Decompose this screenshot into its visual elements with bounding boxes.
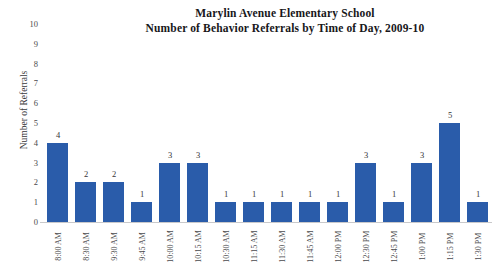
bar-value-label: 3	[156, 151, 184, 160]
x-tick-label: 9:45 AM	[138, 219, 147, 275]
bar-chart: Marylin Avenue Elementary School Number …	[0, 0, 499, 275]
bar-value-label: 1	[464, 190, 492, 199]
bar-value-label: 3	[352, 151, 380, 160]
bar-value-label: 3	[184, 151, 212, 160]
bar-group: 4	[44, 24, 72, 222]
bar-group: 1	[464, 24, 492, 222]
x-tick-label: 1:15 PM	[446, 219, 455, 275]
y-tick-label: 6	[34, 99, 38, 108]
bar-group: 1	[212, 24, 240, 222]
bar-group: 1	[380, 24, 408, 222]
x-tick: 10:00 AM	[156, 224, 184, 275]
x-tick: 9:45 AM	[128, 224, 156, 275]
bar-group: 3	[352, 24, 380, 222]
bar-group: 1	[268, 24, 296, 222]
plot-area: 4221331111131351	[40, 24, 492, 222]
x-tick: 11:15 AM	[240, 224, 268, 275]
x-tick-label: 10:15 AM	[194, 219, 203, 275]
x-tick: 8:00 AM	[44, 224, 72, 275]
bar-group: 5	[436, 24, 464, 222]
x-tick: 11:30 AM	[268, 224, 296, 275]
bar-value-label: 1	[128, 190, 156, 199]
x-tick: 1:15 PM	[436, 224, 464, 275]
x-tick: 11:45 AM	[296, 224, 324, 275]
x-tick-label: 8:30 AM	[82, 219, 91, 275]
bar-value-label: 1	[324, 190, 352, 199]
x-tick: 9:30 AM	[100, 224, 128, 275]
bar-group: 3	[184, 24, 212, 222]
y-axis-ticks: 109876543210	[20, 0, 38, 275]
x-tick: 1:30 PM	[464, 224, 492, 275]
bar-value-label: 1	[296, 190, 324, 199]
x-tick: 10:15 AM	[184, 224, 212, 275]
x-tick: 1:00 PM	[408, 224, 436, 275]
bar-group: 3	[408, 24, 436, 222]
y-tick-label: 7	[34, 79, 38, 88]
bar-group: 2	[100, 24, 128, 222]
x-tick-label: 12:00 PM	[334, 219, 343, 275]
x-tick-label: 10:00 AM	[166, 219, 175, 275]
bar-value-label: 1	[268, 190, 296, 199]
y-tick-label: 8	[34, 60, 38, 69]
bar[interactable]	[159, 163, 180, 222]
bar-group: 2	[72, 24, 100, 222]
x-tick: 12:00 PM	[324, 224, 352, 275]
y-tick-label: 5	[34, 119, 38, 128]
bar-value-label: 5	[436, 111, 464, 120]
x-axis-ticks: 8:00 AM8:30 AM9:30 AM9:45 AM10:00 AM10:1…	[40, 224, 492, 275]
bar-value-label: 1	[212, 190, 240, 199]
bar[interactable]	[47, 143, 68, 222]
x-tick-label: 9:30 AM	[110, 219, 119, 275]
bar[interactable]	[411, 163, 432, 222]
bar[interactable]	[355, 163, 376, 222]
x-tick-label: 1:00 PM	[418, 219, 427, 275]
bar-value-label: 3	[408, 151, 436, 160]
bar[interactable]	[187, 163, 208, 222]
x-tick-label: 11:45 AM	[306, 219, 315, 275]
bar[interactable]	[103, 182, 124, 222]
x-tick: 12:30 PM	[352, 224, 380, 275]
x-tick-label: 1:30 PM	[474, 219, 483, 275]
chart-title-line-1: Marylin Avenue Elementary School	[100, 6, 470, 21]
bar-value-label: 1	[240, 190, 268, 199]
y-tick-label: 2	[34, 178, 38, 187]
bar-group: 1	[128, 24, 156, 222]
x-tick-label: 12:30 PM	[362, 219, 371, 275]
y-tick-label: 0	[34, 218, 38, 227]
bar-value-label: 1	[380, 190, 408, 199]
y-tick-label: 3	[34, 159, 38, 168]
x-tick-label: 11:15 AM	[250, 219, 259, 275]
bar-group: 1	[296, 24, 324, 222]
x-tick-label: 10:30 AM	[222, 219, 231, 275]
bar[interactable]	[439, 123, 460, 222]
x-tick-label: 12:45 PM	[390, 219, 399, 275]
y-tick-label: 1	[34, 198, 38, 207]
bar-group: 1	[324, 24, 352, 222]
bar-group: 1	[240, 24, 268, 222]
x-tick-label: 8:00 AM	[54, 219, 63, 275]
bar-group: 3	[156, 24, 184, 222]
y-tick-label: 10	[30, 20, 39, 29]
bar-value-label: 2	[72, 170, 100, 179]
x-tick-label: 11:30 AM	[278, 219, 287, 275]
bar[interactable]	[75, 182, 96, 222]
y-tick-label: 9	[34, 40, 38, 49]
x-tick: 10:30 AM	[212, 224, 240, 275]
bar-value-label: 2	[100, 170, 128, 179]
x-tick: 12:45 PM	[380, 224, 408, 275]
x-tick: 8:30 AM	[72, 224, 100, 275]
bar-value-label: 4	[44, 131, 72, 140]
y-tick-label: 4	[34, 139, 38, 148]
